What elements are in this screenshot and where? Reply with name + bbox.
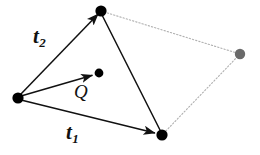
label-t1-subscript: 1 — [72, 131, 79, 146]
arrow-t1 — [21, 100, 155, 133]
edge-top-to-ghost — [101, 11, 240, 54]
q-endpoint — [95, 69, 104, 78]
vector-diagram-figure: t2 t1 Q — [0, 0, 260, 155]
edge-top-to-bottom-right — [101, 13, 161, 132]
label-q: Q — [74, 82, 88, 101]
ghost-vertex — [235, 49, 245, 59]
label-t2-base: t — [33, 24, 39, 48]
label-t1-base: t — [66, 120, 72, 144]
origin-vertex — [12, 92, 23, 103]
diagram-canvas — [0, 0, 260, 155]
top-vertex — [95, 5, 106, 16]
bottom-right-vertex — [156, 129, 167, 140]
label-t2: t2 — [33, 26, 45, 47]
edge-ghost-to-bottom-right — [162, 54, 240, 135]
label-t1: t1 — [66, 122, 78, 143]
label-t2-subscript: 2 — [39, 35, 46, 50]
